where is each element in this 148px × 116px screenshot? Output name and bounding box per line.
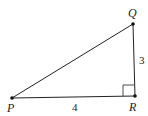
vertex-p-point	[10, 96, 14, 100]
vertex-q-label: Q	[128, 6, 137, 20]
vertex-r-label: R	[128, 100, 137, 114]
vertex-p-label: P	[6, 101, 15, 115]
side-pr-length: 4	[72, 101, 78, 113]
right-angle-marker	[123, 85, 134, 96]
vertex-q-point	[131, 22, 135, 26]
triangle-diagram: Q R P 3 4	[0, 0, 148, 116]
side-qr-length: 3	[139, 54, 145, 66]
triangle-pqr	[12, 24, 135, 98]
vertex-r-point	[133, 94, 137, 98]
